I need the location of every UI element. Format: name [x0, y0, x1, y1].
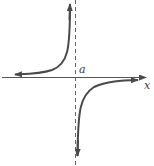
graph-canvas [0, 0, 154, 166]
x-axis-label: x [144, 80, 150, 91]
asymptote-label: a [79, 64, 86, 75]
lower-right-branch [78, 80, 139, 156]
upper-left-branch [15, 5, 70, 75]
function-graph: a x [0, 0, 154, 166]
